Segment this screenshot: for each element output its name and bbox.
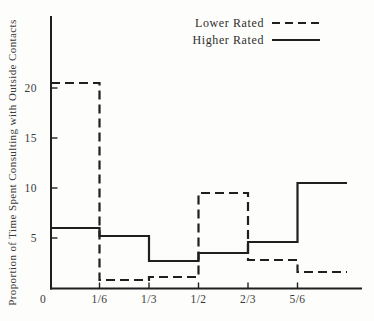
legend-label-lower-rated: Lower Rated xyxy=(195,16,264,31)
x-tick-label: 0 xyxy=(40,293,46,305)
y-tick-label: 20 xyxy=(25,82,38,94)
x-tick-label: 2/3 xyxy=(240,293,256,305)
y-tick-label: 5 xyxy=(31,232,37,244)
series-higher-rated xyxy=(51,183,347,261)
solid-line-sample-icon xyxy=(272,39,320,42)
legend-item-lower-rated: Lower Rated xyxy=(200,15,320,31)
x-tick-label: 1/3 xyxy=(141,293,157,305)
y-axis-label: Proportion of Time Spent Consulting with… xyxy=(6,0,21,321)
legend: Lower Rated Higher Rated xyxy=(200,15,320,49)
legend-label-higher-rated: Higher Rated xyxy=(192,33,264,48)
legend-item-higher-rated: Higher Rated xyxy=(200,32,320,48)
x-tick-label: 1/6 xyxy=(91,293,107,305)
chart-figure: 510152001/61/31/22/35/6 Proportion of Ti… xyxy=(0,0,374,321)
y-tick-label: 15 xyxy=(25,132,38,144)
x-tick-label: 1/2 xyxy=(190,293,206,305)
series-lower-rated xyxy=(51,83,347,280)
dashed-line-sample-icon xyxy=(272,22,320,25)
y-tick-label: 10 xyxy=(25,182,38,194)
x-tick-label: 5/6 xyxy=(289,293,305,305)
